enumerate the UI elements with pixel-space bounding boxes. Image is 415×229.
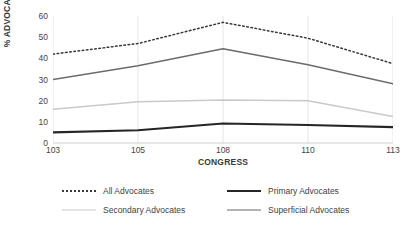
- legend-swatch-icon: [62, 207, 96, 214]
- y-tick-label-40: 40: [20, 53, 48, 63]
- legend-swatch-icon: [227, 207, 261, 214]
- legend-label: Primary Advocates: [268, 186, 339, 196]
- x-tick-label-103: 103: [33, 145, 73, 155]
- legend-item-primary-advocates[interactable]: Primary Advocates: [227, 186, 392, 196]
- line-chart: % ADVOCATES 0102030405060 10310510811011…: [0, 0, 415, 229]
- legend-item-all-advocates[interactable]: All Advocates: [62, 186, 227, 196]
- plot-area: [53, 16, 393, 143]
- y-tick-label-60: 60: [20, 11, 48, 21]
- legend-label: All Advocates: [103, 186, 154, 196]
- legend-item-superficial-advocates[interactable]: Superficial Advocates: [227, 205, 392, 215]
- y-axis-tick-labels: 0102030405060: [20, 0, 48, 229]
- x-tick-label-108: 108: [203, 145, 243, 155]
- y-tick-label-10: 10: [20, 117, 48, 127]
- plot-svg: [53, 16, 393, 145]
- y-tick-label-50: 50: [20, 32, 48, 42]
- y-tick-label-30: 30: [20, 75, 48, 85]
- x-tick-label-105: 105: [118, 145, 158, 155]
- legend-swatch-icon: [227, 188, 261, 195]
- legend-item-secondary-advocates[interactable]: Secondary Advocates: [62, 205, 227, 215]
- legend-label: Secondary Advocates: [103, 205, 185, 215]
- y-tick-label-20: 20: [20, 96, 48, 106]
- x-axis-title: CONGRESS: [53, 157, 393, 167]
- x-tick-label-110: 110: [288, 145, 328, 155]
- legend-label: Superficial Advocates: [268, 205, 349, 215]
- y-axis-title: % ADVOCATES: [2, 0, 12, 60]
- legend-swatch-icon: [62, 188, 96, 195]
- chart-legend: All AdvocatesPrimary AdvocatesSecondary …: [62, 186, 362, 215]
- x-tick-label-113: 113: [373, 145, 413, 155]
